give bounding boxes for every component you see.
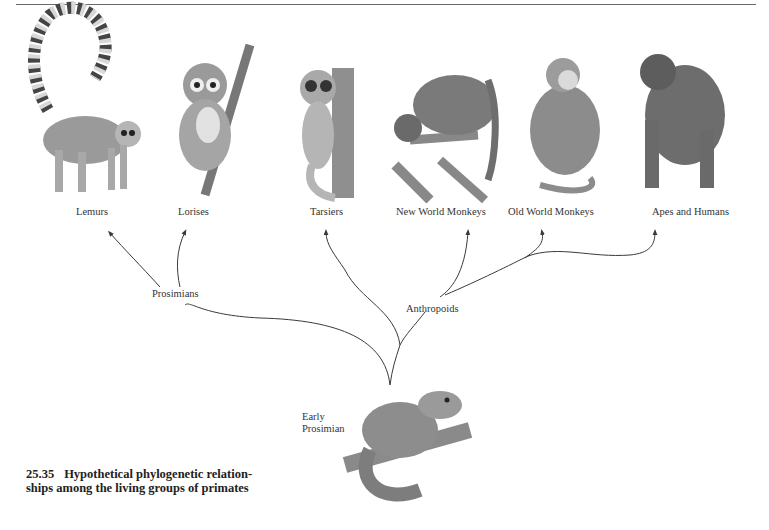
old-world-monkey-illustration [530, 58, 600, 190]
leaf-label-lorises: Lorises [178, 206, 209, 217]
new-world-monkey-illustration [394, 75, 497, 200]
tarsier-illustration [300, 68, 354, 198]
lemur-illustration [34, 8, 141, 192]
phylogeny-diagram [0, 0, 769, 530]
lorises-arrow [177, 232, 185, 287]
lemurs-arrow [110, 233, 160, 287]
tree-branches [110, 232, 655, 385]
leaf-label-tarsiers: Tarsiers [310, 206, 343, 217]
caption-line-1: Hypothetical phylogenetic relation- [64, 467, 252, 481]
root-label-line2: Prosimian [302, 423, 345, 435]
gorilla-illustration [640, 54, 725, 188]
clade-label-prosimians: Prosimians [152, 288, 199, 299]
caption-line-2: ships among the living groups of primate… [26, 481, 249, 495]
leaf-label-lemurs: Lemurs [76, 206, 108, 217]
prosimians-branch [185, 304, 390, 385]
apes-humans-arrow [528, 232, 655, 256]
root-label: Early Prosimian [302, 411, 345, 435]
root-label-line1: Early [302, 411, 345, 423]
leaf-label-apes-humans: Apes and Humans [652, 206, 729, 217]
leaf-label-new-world-monkeys: New World Monkeys [396, 206, 486, 217]
loris-illustration [179, 45, 250, 195]
figure-number: 25.35 [26, 467, 54, 481]
figure-caption: 25.35Hypothetical phylogenetic relation-… [26, 467, 326, 495]
clade-label-anthropoids: Anthropoids [406, 303, 459, 314]
root-branch [390, 345, 400, 385]
leaf-label-old-world-monkeys: Old World Monkeys [508, 206, 594, 217]
tarsiers-arrow [326, 232, 400, 345]
anthropoids-branch [400, 312, 425, 345]
early-prosimian-illustration [345, 391, 470, 494]
